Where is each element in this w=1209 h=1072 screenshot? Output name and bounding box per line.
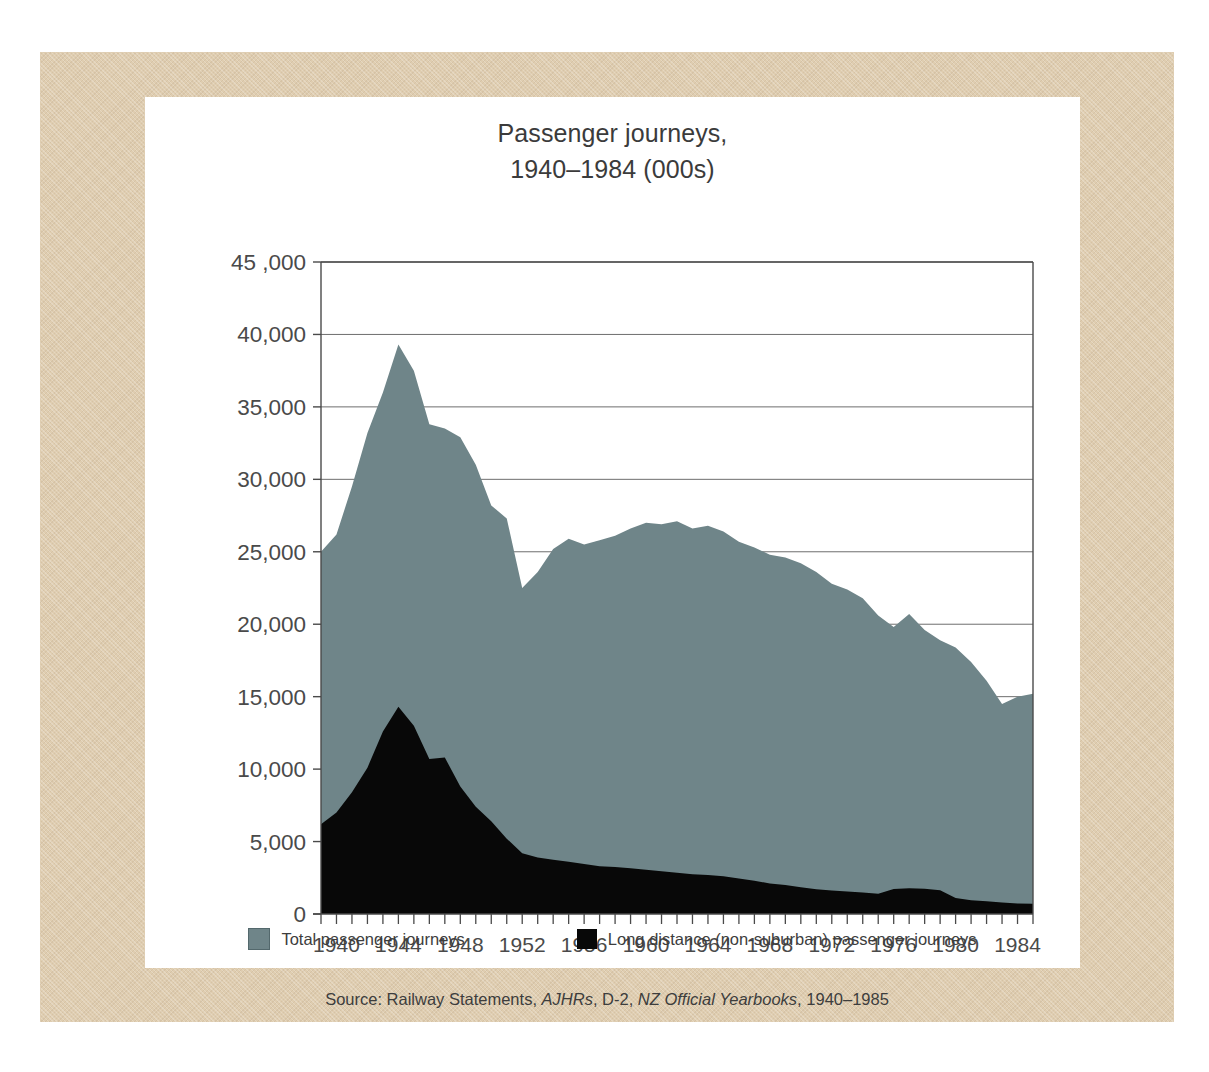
y-tick-label: 20,000 [237,612,306,637]
source-suffix: , 1940–1985 [797,990,889,1008]
legend-swatch-total-icon [248,928,270,950]
y-tick-label: 15,000 [237,685,306,710]
chart-panel: Passenger journeys, 1940–1984 (000s) 45 … [145,97,1080,968]
y-tick-label: 45 ,000 [231,250,306,275]
figure-page: Passenger journeys, 1940–1984 (000s) 45 … [0,0,1209,1072]
source-italic-yearbooks: NZ Official Yearbooks [638,990,797,1008]
source-italic-ajhrs: AJHRs [542,990,593,1008]
area-chart-svg: 45 ,00040,00035,00030,00025,00020,00015,… [145,97,1080,968]
legend-item-long-distance[interactable]: Long distance (non-suburban) passenger j… [577,928,977,950]
y-tick-label: 40,000 [237,322,306,347]
y-tick-label: 30,000 [237,467,306,492]
y-tick-label: 25,000 [237,540,306,565]
legend-item-total[interactable]: Total passenger journeys [248,928,464,950]
legend-swatch-long-distance-icon [577,929,597,949]
plot-area: 45 ,00040,00035,00030,00025,00020,00015,… [145,97,1080,968]
figure-mat-border: Passenger journeys, 1940–1984 (000s) 45 … [40,52,1174,1022]
chart-legend: Total passenger journeys Long distance (… [145,928,1080,950]
y-tick-label: 5,000 [250,830,306,855]
source-mid: , D-2, [593,990,638,1008]
y-tick-label: 0 [293,902,306,927]
source-note: Source: Railway Statements, AJHRs, D-2, … [40,990,1174,1009]
y-tick-label: 35,000 [237,395,306,420]
legend-label-long-distance: Long distance (non-suburban) passenger j… [608,930,977,949]
legend-label-total: Total passenger journeys [281,930,464,949]
y-tick-label: 10,000 [237,757,306,782]
source-prefix: Source: Railway Statements, [325,990,541,1008]
